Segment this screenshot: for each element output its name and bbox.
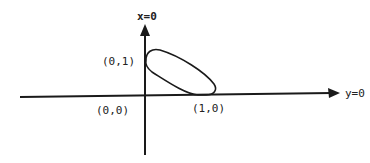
horizontal-axis-label: y=0 <box>345 87 365 100</box>
horizontal-axis-arrow-icon <box>328 88 340 98</box>
point-label-0-1: (0,1) <box>102 55 135 68</box>
vertical-axis-label: x=0 <box>137 10 157 23</box>
point-label-origin: (0,0) <box>96 104 129 117</box>
horizontal-axis <box>20 93 332 97</box>
phase-diagram: x=0 y=0 (0,1) (0,0) (1,0) <box>0 0 370 163</box>
vertical-axis-arrow-icon <box>140 24 150 36</box>
orbit-loop <box>146 49 216 95</box>
point-label-1-0: (1,0) <box>192 102 225 115</box>
